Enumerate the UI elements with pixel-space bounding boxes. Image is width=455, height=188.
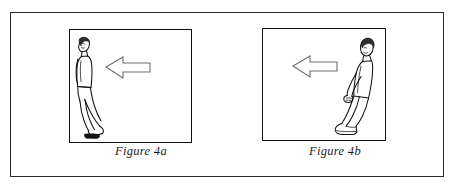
- arrow-left-outline-icon: [293, 56, 337, 77]
- figure-panel-a: Figure 4a: [11, 13, 227, 176]
- panel-a-artwork: [70, 30, 191, 142]
- figure-panel-b: Figure 4b: [227, 13, 443, 176]
- panel-a-box: [69, 29, 192, 143]
- panel-group: Figure 4a: [11, 13, 443, 176]
- panel-a-caption: Figure 4a: [11, 144, 249, 159]
- panel-b-box: [262, 28, 386, 141]
- outer-frame: Figure 4a: [10, 12, 444, 177]
- walking-person-icon: [76, 37, 103, 138]
- panel-b-caption: Figure 4b: [227, 144, 443, 159]
- arrow-left-outline-icon: [106, 57, 150, 78]
- figure-plate: Figure 4a: [0, 0, 455, 188]
- walking-person-icon: [335, 38, 374, 134]
- panel-b-artwork: [263, 29, 385, 140]
